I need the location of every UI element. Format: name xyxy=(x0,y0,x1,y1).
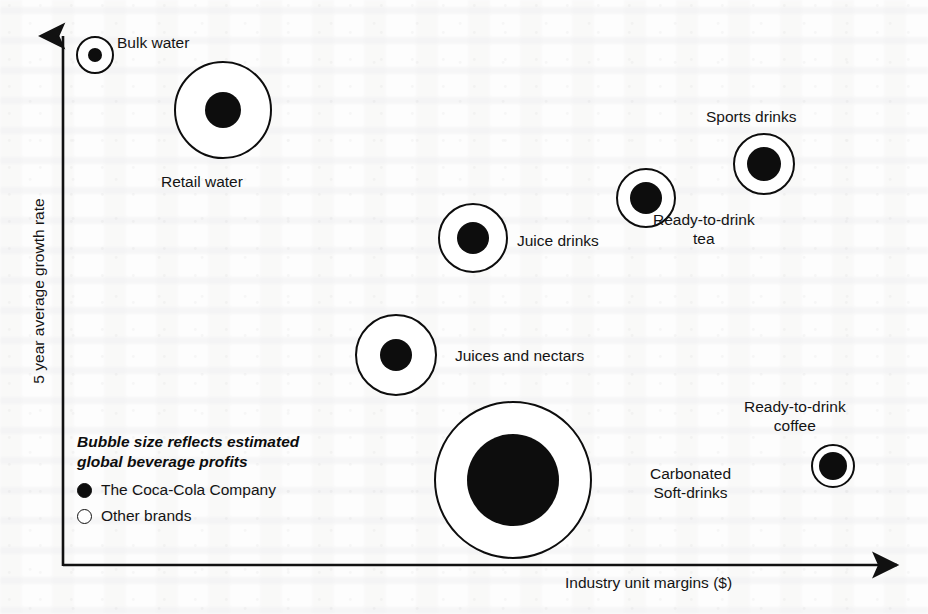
hollow-circle-icon xyxy=(77,509,92,524)
bubble-inner-carbonated-soft-drinks[interactable] xyxy=(467,434,559,526)
filled-circle-icon xyxy=(77,483,92,498)
bubble-label-juice-drinks: Juice drinks xyxy=(517,231,599,250)
legend-title: Bubble size reflects estimated global be… xyxy=(77,432,335,472)
legend-item-label: Other brands xyxy=(101,507,191,525)
bubble-inner-juices-and-nectars[interactable] xyxy=(380,339,412,371)
bubble-label-ready-to-drink-coffee: Ready-to-drink coffee xyxy=(744,397,846,435)
bubble-label-retail-water: Retail water xyxy=(161,172,243,191)
bubble-inner-retail-water[interactable] xyxy=(205,92,241,128)
bubble-label-juices-and-nectars: Juices and nectars xyxy=(455,346,584,365)
bubble-inner-bulk-water[interactable] xyxy=(88,48,102,62)
x-axis-label: Industry unit margins ($) xyxy=(565,574,732,592)
bubble-label-sports-drinks: Sports drinks xyxy=(706,107,796,126)
bubble-label-carbonated-soft-drinks: Carbonated Soft-drinks xyxy=(650,464,731,502)
legend-item-coca-cola: The Coca-Cola Company xyxy=(77,479,335,501)
bubble-inner-ready-to-drink-coffee[interactable] xyxy=(819,452,847,480)
chart-canvas: 5 year average growth rate Industry unit… xyxy=(0,0,928,614)
chart-legend: Bubble size reflects estimated global be… xyxy=(63,418,335,568)
legend-item-other-brands: Other brands xyxy=(77,505,335,527)
bubble-label-bulk-water: Bulk water xyxy=(117,33,189,52)
bubble-label-ready-to-drink-tea: Ready-to-drink tea xyxy=(653,210,755,248)
bubble-inner-sports-drinks[interactable] xyxy=(747,147,781,181)
y-axis-label: 5 year average growth rate xyxy=(30,166,48,416)
bubble-inner-juice-drinks[interactable] xyxy=(457,222,489,254)
legend-item-label: The Coca-Cola Company xyxy=(101,481,276,499)
